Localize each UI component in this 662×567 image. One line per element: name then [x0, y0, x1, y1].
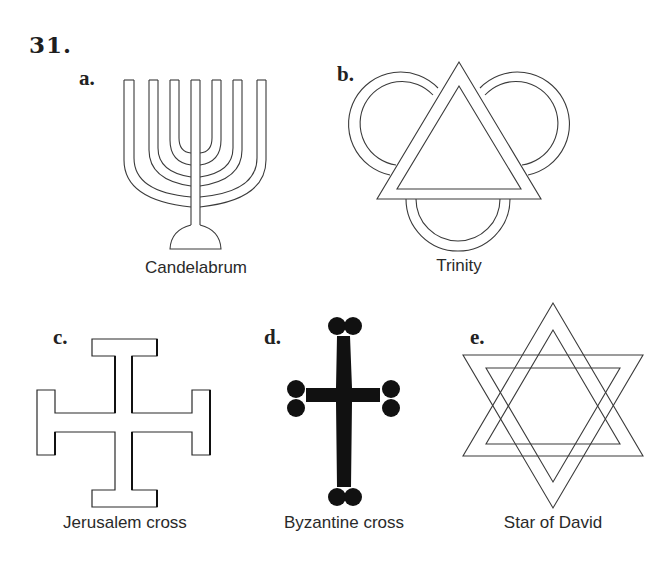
caption-candelabrum: Candelabrum	[145, 258, 247, 278]
caption-trinity: Trinity	[436, 256, 482, 276]
caption-byzantine-cross: Byzantine cross	[284, 513, 404, 533]
menorah-icon	[124, 80, 266, 249]
byzantine-cross-icon	[287, 317, 400, 506]
symbols-artwork	[0, 0, 662, 567]
caption-jerusalem-cross: Jerusalem cross	[63, 513, 187, 533]
jerusalem-cross-icon	[37, 339, 210, 507]
caption-star-of-david: Star of David	[504, 513, 602, 533]
star-of-david-icon	[463, 303, 643, 508]
trinity-icon	[349, 62, 570, 251]
